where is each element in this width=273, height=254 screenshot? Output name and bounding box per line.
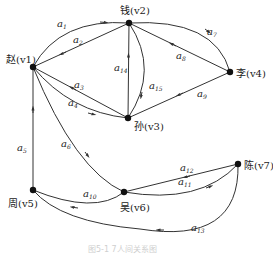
node-label-v2: 钱(v2): [120, 4, 150, 16]
edge-label-a10: a10: [83, 188, 97, 200]
node-label-v7: 陈(v7): [244, 159, 273, 171]
edge-label-a15: a15: [149, 80, 163, 92]
edge-label-a1: a1: [57, 18, 67, 30]
edge-label-a14: a14: [114, 62, 128, 74]
node-label-v3: 孙(v3): [134, 120, 164, 132]
node-labels: 赵(v1) 钱(v2) 孙(v3) 李(v4) 周(v5) 吴(v6) 陈(v7…: [6, 4, 273, 213]
node-label-v5: 周(v5): [8, 198, 38, 209]
edge-label-a8: a8: [176, 50, 186, 62]
edge-label-a2: a2: [73, 34, 83, 46]
node-label-v6: 吴(v6): [120, 202, 150, 213]
node-v6: [121, 189, 127, 195]
edge-a3: [33, 67, 128, 118]
edge-a15: [128, 23, 144, 118]
edge-label-a13: a13: [191, 222, 205, 234]
edge-label-a12: a12: [180, 162, 194, 174]
edge-label-a9: a9: [197, 88, 207, 100]
node-v2: [126, 20, 132, 26]
figure-caption: 图5-1 7人间关系图: [88, 244, 157, 254]
node-v7: [235, 161, 241, 167]
edge-label-a7: a7: [207, 26, 217, 38]
edge-a14: [128, 23, 129, 118]
edge-labels: a1 a2 a3 a4 a5 a6 a7 a8 a9 a10 a11 a12 a…: [17, 18, 217, 234]
nodes: [30, 20, 241, 195]
edge-label-a4: a4: [68, 97, 78, 109]
edge-label-a5: a5: [17, 142, 27, 154]
edge-label-a3: a3: [74, 79, 84, 91]
node-label-v4: 李(v4): [236, 67, 266, 79]
edge-a10: [33, 190, 124, 203]
node-v4: [227, 69, 233, 75]
node-label-v1: 赵(v1): [6, 53, 36, 65]
relationship-graph: a1 a2 a3 a4 a5 a6 a7 a8 a9 a10 a11 a12 a…: [0, 0, 273, 254]
edge-a13: [33, 164, 238, 232]
node-v3: [125, 115, 131, 121]
edge-label-a11: a11: [178, 176, 192, 188]
node-v5: [30, 187, 36, 193]
